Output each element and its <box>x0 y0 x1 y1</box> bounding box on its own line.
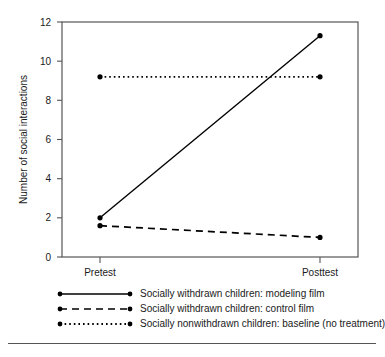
plot-frame <box>62 22 358 257</box>
series-control-film <box>97 223 322 240</box>
series-modeling-point-posttest <box>317 33 322 38</box>
legend-item-modeling-film[interactable]: Socially withdrawn children: modeling fi… <box>0 286 384 301</box>
line-chart-svg: 12 10 8 6 4 2 0 Number of social interac… <box>0 0 384 290</box>
series-control-point-pretest <box>97 223 102 228</box>
y-tick-label-6: 6 <box>45 134 51 145</box>
y-tick-label-8: 8 <box>45 95 51 106</box>
legend-swatch-dashed <box>56 303 134 315</box>
legend-item-control-film[interactable]: Socially withdrawn children: control fil… <box>0 301 384 316</box>
series-control-line <box>100 226 320 238</box>
series-baseline-no-treatment <box>97 74 322 79</box>
legend-label-baseline: Socially nonwithdrawn children: baseline… <box>140 318 385 330</box>
legend-label-control-film: Socially withdrawn children: control fil… <box>140 303 314 315</box>
y-axis-title: Number of social interactions <box>18 75 29 204</box>
plot-area: 12 10 8 6 4 2 0 Number of social interac… <box>0 0 384 290</box>
y-tick-label-0: 0 <box>45 252 51 263</box>
legend-label-modeling-film: Socially withdrawn children: modeling fi… <box>140 288 325 300</box>
footer-divider <box>8 343 376 344</box>
chart-legend: Socially withdrawn children: modeling fi… <box>0 286 384 331</box>
series-control-point-posttest <box>317 235 322 240</box>
legend-item-baseline[interactable]: Socially nonwithdrawn children: baseline… <box>0 316 384 331</box>
series-baseline-point-posttest <box>317 74 322 79</box>
legend-swatch-solid <box>56 288 134 300</box>
x-cat-label-pretest: Pretest <box>84 267 116 278</box>
series-modeling-film <box>97 33 322 220</box>
legend-swatch-dotted <box>56 318 134 330</box>
x-axis-ticks <box>100 257 320 263</box>
y-tick-label-2: 2 <box>45 212 51 223</box>
y-tick-label-10: 10 <box>40 56 52 67</box>
series-modeling-point-pretest <box>97 215 102 220</box>
series-modeling-line <box>100 36 320 218</box>
y-tick-label-4: 4 <box>45 173 51 184</box>
x-cat-label-posttest: Posttest <box>302 267 338 278</box>
y-axis-ticks <box>57 22 62 257</box>
y-tick-label-12: 12 <box>40 17 52 28</box>
series-baseline-point-pretest <box>97 74 102 79</box>
